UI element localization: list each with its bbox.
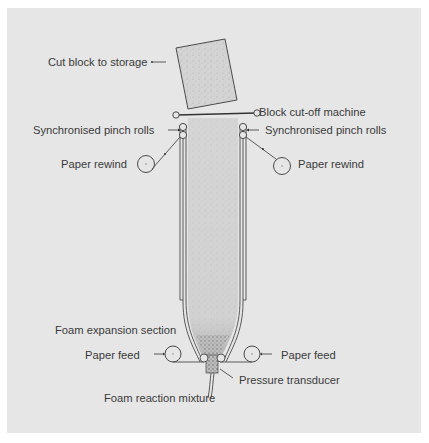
label-pinch-rolls-left: Synchronised pinch rolls (33, 124, 155, 136)
paper-rewind-right (246, 137, 291, 175)
foam-column (180, 118, 246, 373)
label-paper-rewind-right: Paper rewind (298, 158, 364, 170)
paper-rewind-left (138, 137, 181, 173)
label-foam-mixture: Foam reaction mixture (104, 392, 215, 404)
vertical-foaming-process-diagram: Cut block to storage Block cut-off machi… (0, 0, 429, 443)
label-pinch-rolls-right: Synchronised pinch rolls (265, 124, 387, 136)
label-pressure-transducer: Pressure transducer (239, 374, 340, 386)
label-cut-off-machine: Block cut-off machine (259, 106, 366, 118)
label-cut-block: Cut block to storage (48, 56, 148, 68)
label-foam-expansion: Foam expansion section (55, 324, 176, 336)
label-paper-feed-left: Paper feed (85, 349, 140, 361)
label-paper-rewind-left: Paper rewind (61, 158, 127, 170)
pinch-rolls-left (179, 123, 186, 138)
pinch-rolls-right (239, 123, 246, 138)
cut-off-blade (173, 110, 260, 118)
label-paper-feed-right: Paper feed (281, 349, 336, 361)
cut-block (176, 39, 237, 109)
